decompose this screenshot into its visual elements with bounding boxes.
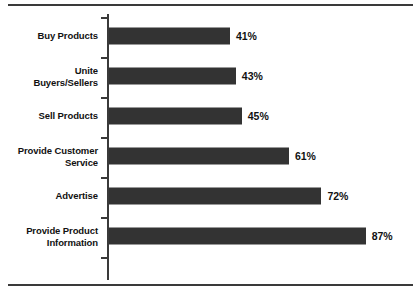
category-label: Buy Products xyxy=(0,30,98,42)
bar-value-label: 45% xyxy=(248,110,269,122)
category-label: Provide Customer Service xyxy=(0,145,98,168)
bar-value-label: 43% xyxy=(242,70,263,82)
bar-value-label: 41% xyxy=(236,30,257,42)
bar-value-label: 61% xyxy=(295,150,316,162)
category-label: Provide Product Information xyxy=(0,225,98,248)
bar-row: Buy Products41% xyxy=(0,16,419,56)
bar xyxy=(109,28,230,45)
category-label: Advertise xyxy=(0,190,98,202)
bar xyxy=(109,228,366,245)
bar xyxy=(109,108,242,125)
bar xyxy=(109,148,289,165)
bar-row: Unite Buyers/Sellers43% xyxy=(0,56,419,96)
bar-value-label: 72% xyxy=(327,190,348,202)
bar-row: Sell Products45% xyxy=(0,96,419,136)
plot-area: Buy Products41%Unite Buyers/Sellers43%Se… xyxy=(0,12,419,284)
bar xyxy=(109,188,321,205)
top-rule xyxy=(8,4,413,6)
category-label: Sell Products xyxy=(0,110,98,122)
bar-value-label: 87% xyxy=(372,230,393,242)
bottom-rule xyxy=(8,284,413,286)
bar-row: Provide Product Information87% xyxy=(0,216,419,256)
bar-row: Advertise72% xyxy=(0,176,419,216)
category-label: Unite Buyers/Sellers xyxy=(0,65,98,88)
bar xyxy=(109,68,236,85)
bar-row: Provide Customer Service61% xyxy=(0,136,419,176)
bar-chart-figure: Buy Products41%Unite Buyers/Sellers43%Se… xyxy=(0,0,419,292)
axis-tick xyxy=(101,257,107,259)
